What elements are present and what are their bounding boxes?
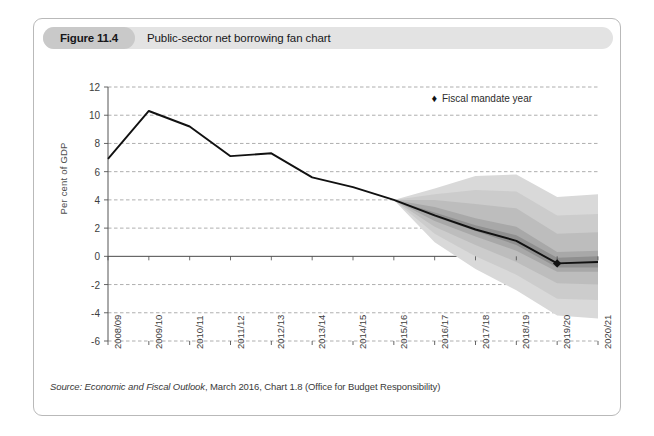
y-tick-label: 12 — [74, 82, 100, 93]
x-tick-label: 2009/10 — [153, 315, 164, 349]
diamond-icon: ♦ — [431, 93, 437, 104]
figure-title: Public-sector net borrowing fan chart — [147, 27, 331, 49]
source-label: Source: — [50, 381, 82, 392]
y-tick-label: 10 — [74, 110, 100, 121]
figure-number-badge: Figure 11.4 — [43, 27, 135, 49]
x-tick-label: 2017/18 — [480, 315, 491, 349]
x-tick-label: 2020/21 — [602, 315, 613, 349]
source-rest: , March 2016, Chart 1.8 (Office for Budg… — [205, 381, 440, 392]
x-tick-label: 2019/20 — [561, 315, 572, 349]
chart-area: Per cent of GDP ♦ Fiscal mandate year 12… — [43, 55, 613, 373]
y-tick-label: 8 — [74, 138, 100, 149]
y-tick-label: 2 — [74, 223, 100, 234]
chart-legend: ♦ Fiscal mandate year — [431, 93, 532, 104]
x-tick-label: 2008/09 — [112, 315, 123, 349]
y-tick-label: 6 — [74, 166, 100, 177]
legend-label: Fiscal mandate year — [442, 93, 532, 104]
x-tick-label: 2016/17 — [439, 315, 450, 349]
x-tick-label: 2011/12 — [235, 315, 246, 349]
x-tick-label: 2010/11 — [194, 315, 205, 349]
x-tick-label: 2015/16 — [398, 315, 409, 349]
x-tick-label: 2012/13 — [275, 315, 286, 349]
figure-header-bar: Figure 11.4 Public-sector net borrowing … — [43, 27, 613, 49]
y-tick-label: 4 — [74, 194, 100, 205]
figure-card: Figure 11.4 Public-sector net borrowing … — [33, 18, 621, 416]
source-publication: Economic and Fiscal Outlook — [82, 381, 205, 392]
y-tick-label: -4 — [74, 307, 100, 318]
figure-page: Figure 11.4 Public-sector net borrowing … — [0, 0, 654, 436]
x-tick-label: 2018/19 — [520, 315, 531, 349]
x-tick-label: 2014/15 — [357, 315, 368, 349]
y-tick-label: 0 — [74, 251, 100, 262]
y-tick-label: -2 — [74, 279, 100, 290]
x-tick-label: 2013/14 — [316, 315, 327, 349]
source-note: Source: Economic and Fiscal Outlook, Mar… — [50, 381, 440, 392]
y-tick-label: -6 — [74, 336, 100, 347]
